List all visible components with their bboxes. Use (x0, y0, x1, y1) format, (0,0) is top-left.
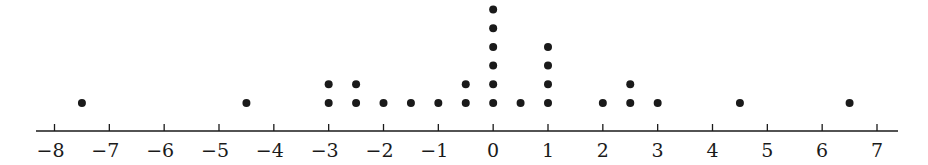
x-tick-label: −3 (311, 139, 339, 161)
data-dot (489, 6, 497, 14)
data-dot (462, 99, 470, 107)
data-dot (544, 43, 552, 51)
x-tick-label: 4 (706, 139, 718, 161)
data-dot (489, 43, 497, 51)
data-dot (736, 99, 744, 107)
data-dot (325, 80, 333, 88)
x-tick-label: −2 (365, 139, 393, 161)
x-tick-label: −7 (91, 139, 119, 161)
data-dot (407, 99, 415, 107)
data-dot (599, 99, 607, 107)
x-axis-tick-labels: −8−7−6−5−4−3−2−101234567 (36, 139, 883, 161)
data-dot (242, 99, 250, 107)
data-dot (434, 99, 442, 107)
data-dot (489, 24, 497, 32)
x-tick-label: 3 (652, 139, 664, 161)
data-dot (325, 99, 333, 107)
data-dot (626, 80, 634, 88)
data-dot (544, 62, 552, 70)
x-tick-label: 2 (597, 139, 609, 161)
data-dot (626, 99, 634, 107)
data-dot (380, 99, 388, 107)
data-dot (352, 99, 360, 107)
data-dot (489, 99, 497, 107)
data-dot (517, 99, 525, 107)
x-tick-label: 7 (871, 139, 883, 161)
x-tick-label: −4 (256, 139, 284, 161)
data-dots (78, 6, 854, 108)
x-tick-label: 5 (761, 139, 773, 161)
data-dot (544, 99, 552, 107)
data-dot (352, 80, 360, 88)
dot-plot-canvas: −8−7−6−5−4−3−2−101234567 (0, 0, 928, 165)
x-tick-label: 1 (542, 139, 554, 161)
x-tick-label: 0 (487, 139, 499, 161)
data-dot (489, 62, 497, 70)
data-dot (489, 80, 497, 88)
x-tick-label: −5 (201, 139, 229, 161)
data-dot (846, 99, 854, 107)
x-tick-label: −8 (36, 139, 64, 161)
x-axis-ticks (55, 124, 878, 131)
x-tick-label: 6 (816, 139, 828, 161)
data-dot (462, 80, 470, 88)
x-tick-label: −1 (420, 139, 448, 161)
data-dot (78, 99, 86, 107)
data-dot (544, 80, 552, 88)
data-dot (654, 99, 662, 107)
x-tick-label: −6 (146, 139, 174, 161)
